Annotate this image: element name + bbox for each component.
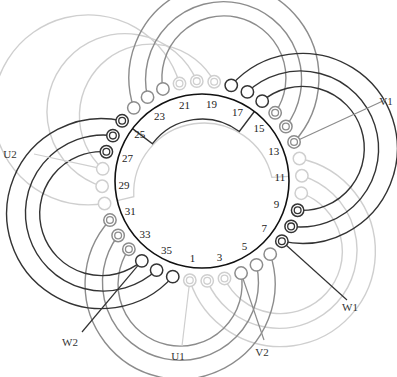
slot-label: 9 <box>274 198 280 210</box>
coil-connection-arcs <box>0 0 397 377</box>
slot-label: 31 <box>125 205 136 217</box>
slot-label: 15 <box>254 122 266 134</box>
terminal-circle <box>97 163 109 175</box>
stator-circle <box>115 94 289 268</box>
w-group-left-arc <box>25 135 156 291</box>
lead-label-w2: W2 <box>62 336 78 348</box>
slot-label: 29 <box>119 179 131 191</box>
terminal-circle <box>218 272 230 284</box>
terminal-circle <box>241 86 253 98</box>
phase-lead-labels: U1V1W1U2V2W2 <box>3 95 392 362</box>
terminal-circle <box>296 170 308 182</box>
winding-diagram: 1357911131517192123252729313335 U1V1W1U2… <box>0 0 397 377</box>
terminal-circle <box>269 107 281 119</box>
slot-label: 19 <box>206 98 218 110</box>
slot-label: 3 <box>217 251 223 263</box>
lead-line-v2 <box>241 273 264 340</box>
slot-label: 7 <box>262 222 268 234</box>
w-group-left-arc <box>7 119 173 309</box>
terminal-circle <box>291 204 303 216</box>
u-group-bottomright-arc <box>207 176 357 329</box>
terminal-circle <box>280 120 292 132</box>
terminal-circle <box>191 75 203 87</box>
terminal-circle <box>98 197 110 209</box>
terminal-circle <box>184 274 196 286</box>
terminal-circle <box>276 235 288 247</box>
slot-label: 17 <box>232 106 244 118</box>
terminal-circle <box>288 136 300 148</box>
terminal-circle <box>225 79 237 91</box>
lead-line-w2 <box>82 261 142 332</box>
slot-label: 25 <box>134 128 146 140</box>
terminal-circle <box>173 77 185 89</box>
lead-label-w1: W1 <box>342 301 358 313</box>
terminal-circle <box>104 214 116 226</box>
terminal-circle <box>116 115 128 127</box>
terminal-circle <box>96 180 108 192</box>
slot-label: 1 <box>190 252 196 264</box>
lead-line-v1 <box>294 100 385 142</box>
slot-label: 11 <box>275 171 286 183</box>
terminal-circle <box>157 83 169 95</box>
terminal-circle <box>100 146 112 158</box>
slot-label: 21 <box>179 99 190 111</box>
slot-label: 13 <box>268 145 280 157</box>
terminal-circle <box>107 129 119 141</box>
terminal-circle <box>293 152 305 164</box>
terminal-circle <box>128 102 140 114</box>
slot-label: 33 <box>139 228 151 240</box>
slot-label: 23 <box>154 110 166 122</box>
terminal-circle <box>167 270 179 282</box>
terminal-circle <box>150 264 162 276</box>
terminal-circle <box>136 255 148 267</box>
lead-line-w1 <box>282 241 347 300</box>
terminal-circle <box>112 229 124 241</box>
terminal-circle <box>295 187 307 199</box>
lead-label-u2: U2 <box>3 148 16 160</box>
terminal-circle <box>208 76 220 88</box>
slot-label: 5 <box>242 240 248 252</box>
lead-label-v1: V1 <box>379 95 392 107</box>
terminal-circle <box>250 259 262 271</box>
lead-label-u1: U1 <box>171 350 184 362</box>
terminal-circle <box>123 243 135 255</box>
terminal-circle <box>256 95 268 107</box>
terminal-circle <box>285 220 297 232</box>
lead-label-v2: V2 <box>255 346 268 358</box>
terminal-circle <box>235 267 247 279</box>
terminal-circle <box>141 91 153 103</box>
slot-label: 27 <box>122 152 134 164</box>
lead-line-u1 <box>182 280 190 346</box>
slot-label: 35 <box>161 244 173 256</box>
terminal-circle <box>264 248 276 260</box>
terminal-circle <box>201 275 213 287</box>
w-group-right-arc <box>231 53 397 243</box>
w-group-right-arc <box>247 71 378 227</box>
